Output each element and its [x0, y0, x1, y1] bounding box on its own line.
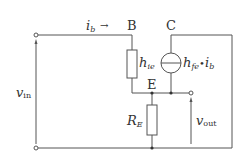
vout-arrowhead-icon: [190, 97, 193, 102]
terminal-vout: [189, 91, 193, 95]
label-vin: vin: [16, 85, 31, 100]
junction-source-emitter: [169, 91, 172, 94]
label-hie: hie: [139, 55, 155, 71]
label-vout: vout: [196, 113, 217, 128]
label-hfe-ib: hfe•ib: [183, 55, 214, 71]
node-label-base: B: [127, 18, 137, 33]
terminal-vin-top: [34, 33, 38, 37]
node-label-collector: C: [166, 18, 176, 33]
label-ib: ib: [86, 18, 95, 34]
node-label-emitter: E: [147, 77, 157, 92]
vin-arrowhead-icon: [35, 39, 38, 44]
circuit-diagram: ib → B C E hie hfe•ib RE vin vout: [0, 0, 245, 159]
label-re: RE: [126, 113, 143, 129]
resistor-hie: [127, 50, 137, 78]
ib-arrow-icon: →: [100, 20, 109, 31]
junction-bottom: [150, 146, 153, 149]
resistor-re: [147, 105, 157, 135]
terminal-vin-bottom: [34, 146, 38, 150]
